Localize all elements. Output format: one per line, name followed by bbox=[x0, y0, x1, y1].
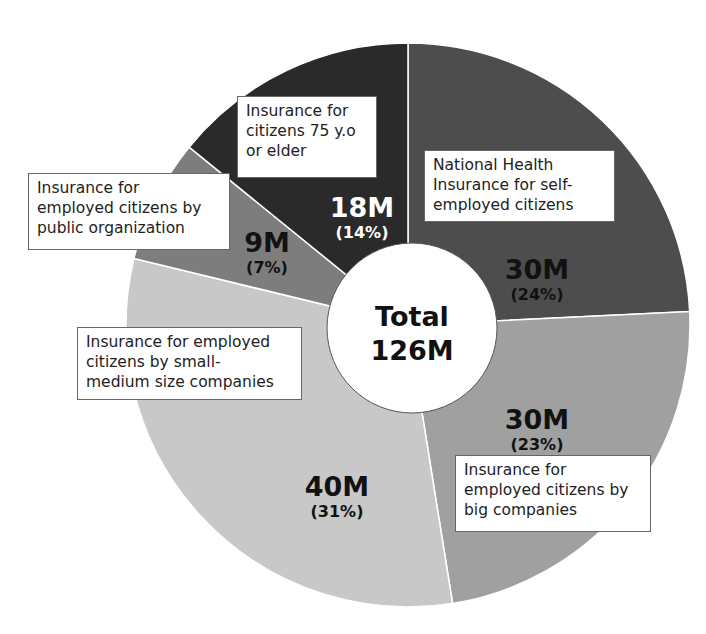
center-total-title: Total bbox=[370, 300, 453, 334]
callout-elder: Insurance for citizens 75 y.o or elder bbox=[237, 96, 377, 178]
center-total-value: 126M bbox=[370, 334, 453, 368]
callout-public-org: Insurance for employed citizens by publi… bbox=[28, 173, 230, 250]
value-label-big-companies: 30M (23%) bbox=[505, 405, 569, 455]
center-total-label: Total 126M bbox=[370, 300, 453, 368]
value-label-elder: 18M (14%) bbox=[330, 193, 394, 243]
callout-small-medium: Insurance for employed citizens by small… bbox=[77, 327, 302, 400]
value-label-public-org: 9M (7%) bbox=[244, 228, 290, 278]
callout-big-companies: Insurance for employed citizens by big c… bbox=[455, 455, 651, 532]
callout-self-employed: National Health Insurance for self- empl… bbox=[424, 150, 615, 222]
value-label-small-medium: 40M (31%) bbox=[305, 472, 369, 522]
value-label-self-employed: 30M (24%) bbox=[505, 255, 569, 305]
